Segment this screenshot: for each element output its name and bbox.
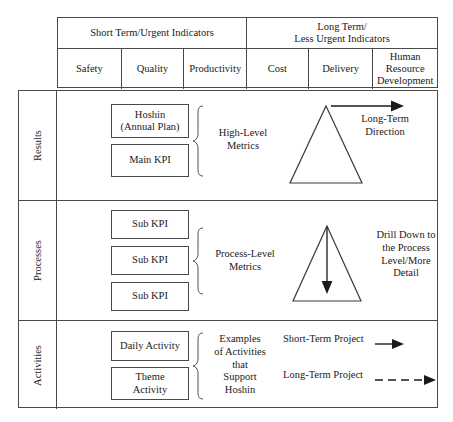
header-column-hrd-line2: Resource [377,63,434,75]
row-processes: Processes Sub KPI Sub KPI Sub KPI [19,200,437,320]
header-group-long-term-line1: Long Term/ [294,21,389,33]
row-results: Results Hoshin (Annual Plan) Main KPI [19,91,437,200]
row-processes-content: Sub KPI Sub KPI Sub KPI Process-Level Me… [57,201,437,320]
header-group-long-term-line2: Less Urgent Indicators [294,33,389,45]
header-group-short-term: Short Term/Urgent Indicators [58,18,246,48]
label-drill-down-line4: Detail [367,267,445,280]
label-examples-line2: of Activities [205,346,275,359]
label-drill-down-line1: Drill Down to [367,229,445,242]
box-hoshin-annual-plan: Hoshin (Annual Plan) [111,104,189,138]
label-process-level-metrics-line1: Process-Level [205,248,285,261]
box-main-kpi: Main KPI [111,144,189,177]
long-term-project-arrow-icon [375,374,437,386]
header-column-human-resource-development: Human Resource Development [372,49,437,89]
header-column-delivery: Delivery [308,49,373,89]
box-sub-kpi-2-label: Sub KPI [132,254,168,266]
label-long-term-direction: Long-Term Direction [345,113,425,139]
row-activities: Activities Daily Activity Theme Activity [19,320,437,409]
label-examples-line3: that [205,359,275,372]
row-activities-content: Daily Activity Theme Activity Examples o… [57,321,437,409]
row-label-activities-text: Activities [32,345,43,386]
hoshin-matrix-figure: Short Term/Urgent Indicators Long Term/ … [0,0,453,422]
header-group-row: Short Term/Urgent Indicators Long Term/ … [58,18,437,48]
label-examples-of-activities: Examples of Activities that Support Hosh… [205,333,275,397]
box-sub-kpi-3-label: Sub KPI [132,290,168,302]
header-column-cost: Cost [246,49,308,89]
row-label-processes-text: Processes [32,240,43,281]
row-label-results-text: Results [32,130,43,161]
short-term-project-arrow-icon [375,338,411,350]
label-drill-down: Drill Down to the Process Level/More Det… [367,229,445,280]
label-high-level-metrics-line1: High-Level [207,127,279,140]
header-column-quality-label: Quality [137,63,169,75]
label-examples-line1: Examples [205,333,275,346]
header-column-hrd-line1: Human [377,51,434,63]
box-theme-activity-line1: Theme [133,371,167,383]
box-daily-activity: Daily Activity [111,331,189,361]
body-table: Results Hoshin (Annual Plan) Main KPI [18,90,438,408]
label-high-level-metrics: High-Level Metrics [207,127,279,153]
header-column-hrd-line3: Development [377,75,434,87]
box-sub-kpi-2: Sub KPI [111,246,189,275]
label-long-term-direction-line2: Direction [345,126,425,139]
box-sub-kpi-1-label: Sub KPI [132,218,168,230]
header-table: Short Term/Urgent Indicators Long Term/ … [57,17,438,88]
header-column-row: Safety Quality Productivity Cost Deliver… [58,48,437,89]
header-column-productivity-label: Productivity [189,63,241,75]
box-main-kpi-label: Main KPI [129,154,171,166]
label-high-level-metrics-line2: Metrics [207,140,279,153]
box-daily-activity-label: Daily Activity [120,340,180,352]
label-drill-down-line3: Level/More [367,255,445,268]
box-hoshin-line2: (Annual Plan) [120,121,179,133]
row-label-results: Results [19,91,57,200]
label-long-term-direction-line1: Long-Term [345,113,425,126]
label-process-level-metrics: Process-Level Metrics [205,248,285,274]
label-examples-line5: Hoshin [205,384,275,397]
brace-process-level-metrics [192,227,206,295]
label-drill-down-line2: the Process [367,242,445,255]
label-examples-line4: Support [205,371,275,384]
header-column-delivery-label: Delivery [322,63,359,75]
box-sub-kpi-1: Sub KPI [111,210,189,239]
box-theme-activity: Theme Activity [111,367,189,400]
box-theme-activity-line2: Activity [133,384,167,396]
down-arrow-icon [320,227,334,295]
row-label-activities: Activities [19,321,57,409]
label-process-level-metrics-line2: Metrics [205,261,285,274]
box-hoshin-line1: Hoshin [120,109,179,121]
brace-high-level-metrics [192,105,206,177]
header-group-long-term: Long Term/ Less Urgent Indicators [246,18,437,48]
header-column-safety: Safety [58,49,121,89]
header-column-quality: Quality [121,49,184,89]
header-column-cost-label: Cost [268,63,287,75]
header-group-short-term-label: Short Term/Urgent Indicators [90,27,214,39]
header-column-safety-label: Safety [76,63,103,75]
brace-examples-of-activities [192,332,206,400]
header-column-productivity: Productivity [183,49,246,89]
row-results-content: Hoshin (Annual Plan) Main KPI High-Level… [57,91,437,200]
right-arrow-icon [331,99,405,113]
row-label-processes: Processes [19,201,57,320]
box-sub-kpi-3: Sub KPI [111,282,189,311]
